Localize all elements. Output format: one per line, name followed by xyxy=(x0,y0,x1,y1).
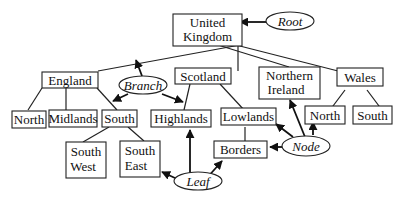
svg-text:Leaf: Leaf xyxy=(185,174,212,189)
label-node: Node xyxy=(282,136,330,156)
svg-text:Root: Root xyxy=(277,14,303,29)
svg-text:Midlands: Midlands xyxy=(48,111,97,126)
svg-text:West: West xyxy=(70,159,96,174)
svg-text:South: South xyxy=(71,144,102,159)
node-south-west: South West xyxy=(66,142,106,178)
node-england-south: South xyxy=(102,110,137,127)
svg-text:Ireland: Ireland xyxy=(268,82,305,97)
svg-text:South: South xyxy=(125,143,156,158)
svg-text:England: England xyxy=(48,73,92,88)
svg-text:Wales: Wales xyxy=(344,70,375,85)
svg-text:Kingdom: Kingdom xyxy=(183,29,232,44)
svg-text:Scotland: Scotland xyxy=(180,69,226,84)
label-leaf: Leaf xyxy=(174,172,222,190)
node-england: England xyxy=(42,72,98,88)
svg-text:South: South xyxy=(104,111,135,126)
node-wales: Wales xyxy=(337,68,383,86)
node-midlands: Midlands xyxy=(48,110,97,127)
svg-text:South: South xyxy=(357,108,388,123)
svg-text:North: North xyxy=(14,112,45,127)
svg-text:Highlands: Highlands xyxy=(154,111,207,126)
node-wales-north: North xyxy=(305,106,345,124)
node-highlands: Highlands xyxy=(151,110,211,127)
svg-text:United: United xyxy=(190,15,226,30)
svg-text:Lowlands: Lowlands xyxy=(223,109,274,124)
uk-tree-diagram: United Kingdom England Scotland Northern… xyxy=(0,0,404,202)
label-root: Root xyxy=(266,12,314,30)
node-england-north: North xyxy=(12,111,46,128)
label-branch: Branch xyxy=(119,76,167,94)
node-united-kingdom: United Kingdom xyxy=(173,14,242,46)
svg-text:Branch: Branch xyxy=(124,78,162,93)
svg-text:North: North xyxy=(310,108,341,123)
svg-text:Northern: Northern xyxy=(266,68,313,83)
node-south-east: South East xyxy=(120,141,160,177)
node-borders: Borders xyxy=(214,141,267,158)
svg-text:East: East xyxy=(125,158,148,173)
node-lowlands: Lowlands xyxy=(221,108,276,125)
svg-text:Borders: Borders xyxy=(220,142,261,157)
svg-text:Node: Node xyxy=(291,139,320,154)
node-wales-south: South xyxy=(353,106,392,124)
node-scotland: Scotland xyxy=(175,68,231,84)
node-northern-ireland: Northern Ireland xyxy=(259,67,320,99)
